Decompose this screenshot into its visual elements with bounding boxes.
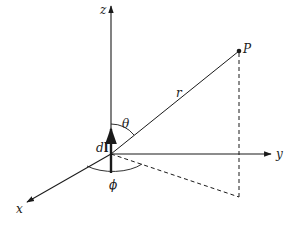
phi-label: ϕ — [109, 178, 117, 192]
x-axis-label: x — [16, 202, 23, 216]
x-axis — [27, 154, 111, 202]
phi-arc — [87, 164, 142, 171]
dl-label: dl — [96, 141, 109, 155]
point-p — [237, 49, 242, 54]
theta-label: θ — [122, 117, 130, 131]
position-vector-r — [111, 51, 239, 154]
z-axis-label: z — [99, 3, 107, 17]
y-axis-label: y — [275, 147, 283, 161]
projection-base-dashed — [111, 154, 239, 197]
point-p-label: P — [242, 42, 252, 56]
r-label: r — [176, 86, 183, 100]
spherical-coordinate-diagram: z y x r P dl θ ϕ — [0, 0, 294, 225]
